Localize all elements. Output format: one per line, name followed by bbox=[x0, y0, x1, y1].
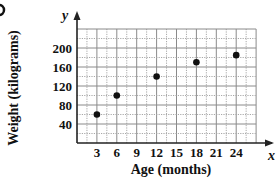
x-tick-label: 3 bbox=[94, 145, 101, 160]
data-point bbox=[153, 73, 160, 80]
y-tick-label: 80 bbox=[59, 98, 72, 113]
x-tick-label: 9 bbox=[133, 145, 140, 160]
y-tick-label: 160 bbox=[53, 60, 73, 75]
grid bbox=[77, 29, 256, 143]
y-tick-label: 200 bbox=[53, 41, 73, 56]
tick-labels: 36912151821244080120160200 bbox=[53, 41, 244, 161]
y-axis-arrow-icon bbox=[74, 11, 81, 20]
x-tick-label: 24 bbox=[230, 145, 244, 160]
panel-label-fragment bbox=[0, 5, 4, 15]
x-axis-arrow-icon bbox=[265, 140, 274, 147]
y-axis-title: Weight (kilograms) bbox=[6, 30, 22, 146]
x-tick-label: 21 bbox=[210, 145, 223, 160]
x-axis-title: Age (months) bbox=[131, 162, 212, 178]
scatter-chart: 36912151821244080120160200 Age (months) … bbox=[0, 0, 278, 195]
x-axis-letter: x bbox=[267, 148, 275, 163]
x-tick-label: 15 bbox=[170, 145, 184, 160]
x-tick-label: 18 bbox=[190, 145, 204, 160]
y-tick-label: 120 bbox=[53, 79, 73, 94]
data-point bbox=[94, 111, 101, 118]
y-tick-label: 40 bbox=[59, 117, 72, 132]
x-tick-label: 6 bbox=[114, 145, 121, 160]
y-axis-letter: y bbox=[60, 8, 69, 23]
axes bbox=[74, 11, 275, 147]
data-point bbox=[193, 59, 200, 66]
data-point bbox=[114, 92, 121, 99]
x-tick-label: 12 bbox=[150, 145, 163, 160]
data-point bbox=[233, 52, 240, 59]
